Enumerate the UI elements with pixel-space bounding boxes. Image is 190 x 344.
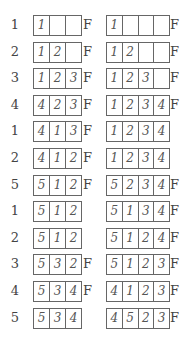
- reference-label: 1: [9, 123, 21, 138]
- reference-row: 11F1F: [0, 15, 190, 36]
- frame-cell: 5: [123, 309, 139, 328]
- frame-cell: 3: [139, 202, 155, 221]
- frame-cell: 2: [139, 255, 155, 274]
- three-frame-set: 412: [33, 148, 82, 169]
- frame-cell: [154, 69, 169, 88]
- frame-cell: 1: [123, 255, 139, 274]
- reference-row: 4423F1234F: [0, 95, 190, 116]
- reference-label: 5: [9, 310, 21, 325]
- three-frame-set: 413: [33, 121, 82, 142]
- reference-row: 15125134F: [0, 201, 190, 222]
- frame-cell: 4: [66, 282, 81, 301]
- reference-label: 5: [9, 177, 21, 192]
- frame-cell: [123, 16, 139, 35]
- frame-cell: [154, 43, 169, 62]
- frame-cell: 2: [50, 43, 66, 62]
- frame-cell: 3: [66, 69, 81, 88]
- frame-cell: 3: [154, 255, 169, 274]
- reference-row: 5512F5234F: [0, 175, 190, 196]
- frame-cell: 3: [139, 149, 155, 168]
- reference-row: 1413F1234: [0, 121, 190, 142]
- page-fault-marker: F: [170, 70, 179, 85]
- frame-cell: 4: [154, 122, 169, 141]
- page-fault-marker: F: [83, 177, 92, 192]
- frame-cell: 4: [154, 176, 169, 195]
- four-frame-set: 1234: [106, 95, 170, 116]
- reference-row: 4534F4123F: [0, 281, 190, 302]
- page-fault-marker: F: [170, 310, 179, 325]
- frame-cell: 1: [34, 69, 50, 88]
- frame-cell: 4: [34, 96, 50, 115]
- frame-cell: 2: [123, 149, 139, 168]
- frame-cell: 2: [123, 96, 139, 115]
- reference-row: 2412F1234: [0, 148, 190, 169]
- frame-cell: 2: [123, 122, 139, 141]
- reference-label: 2: [9, 44, 21, 59]
- frame-cell: 1: [107, 16, 123, 35]
- frame-cell: 4: [154, 149, 169, 168]
- four-frame-set: 1: [106, 15, 170, 36]
- page-fault-marker: F: [170, 17, 179, 32]
- four-frame-set: 4123: [106, 281, 170, 302]
- frame-cell: 1: [50, 122, 66, 141]
- frame-cell: 2: [139, 229, 155, 248]
- frame-cell: 2: [123, 69, 139, 88]
- frame-cell: 1: [107, 69, 123, 88]
- frame-cell: 2: [66, 202, 81, 221]
- reference-label: 1: [9, 203, 21, 218]
- reference-row: 212F12F: [0, 42, 190, 63]
- frame-cell: 5: [34, 176, 50, 195]
- frame-cell: 2: [50, 69, 66, 88]
- page-fault-marker: F: [83, 150, 92, 165]
- frame-cell: 2: [139, 309, 155, 328]
- frame-cell: 1: [50, 229, 66, 248]
- frame-cell: 4: [66, 309, 81, 328]
- four-frame-set: 5134: [106, 201, 170, 222]
- four-frame-set: 5123: [106, 254, 170, 275]
- frame-cell: 1: [50, 202, 66, 221]
- frame-cell: 1: [34, 43, 50, 62]
- frame-cell: 2: [66, 149, 81, 168]
- page-fault-marker: F: [170, 44, 179, 59]
- frame-cell: 4: [154, 229, 169, 248]
- frame-cell: 5: [107, 229, 123, 248]
- frame-cell: 2: [66, 229, 81, 248]
- frame-cell: [66, 43, 81, 62]
- frame-cell: 1: [34, 16, 50, 35]
- page-fault-marker: F: [83, 123, 92, 138]
- four-frame-set: 12: [106, 42, 170, 63]
- three-frame-set: 512: [33, 201, 82, 222]
- frame-cell: 3: [66, 122, 81, 141]
- frame-cell: 2: [139, 282, 155, 301]
- frame-cell: 2: [66, 176, 81, 195]
- reference-label: 2: [9, 150, 21, 165]
- reference-row: 55344523F: [0, 308, 190, 329]
- three-frame-set: 512: [33, 228, 82, 249]
- frame-cell: 3: [50, 309, 66, 328]
- frame-cell: 5: [107, 176, 123, 195]
- frame-cell: 5: [34, 282, 50, 301]
- frame-cell: 5: [34, 202, 50, 221]
- page-fault-marker: F: [83, 283, 92, 298]
- frame-cell: 2: [123, 43, 139, 62]
- reference-row: 3123F123F: [0, 68, 190, 89]
- three-frame-set: 532: [33, 254, 82, 275]
- frame-cell: 1: [107, 149, 123, 168]
- frame-cell: [139, 43, 155, 62]
- frame-cell: [66, 16, 81, 35]
- reference-label: 2: [9, 230, 21, 245]
- frame-cell: 1: [50, 149, 66, 168]
- frame-cell: 4: [154, 202, 169, 221]
- frame-cell: 1: [123, 282, 139, 301]
- frame-cell: 1: [50, 176, 66, 195]
- frame-cell: 3: [154, 309, 169, 328]
- frame-cell: 1: [107, 43, 123, 62]
- frame-cell: 3: [139, 69, 155, 88]
- page-fault-marker: F: [83, 256, 92, 271]
- reference-label: 3: [9, 70, 21, 85]
- reference-row: 25125124F: [0, 228, 190, 249]
- frame-cell: 5: [107, 202, 123, 221]
- reference-label: 1: [9, 17, 21, 32]
- frame-cell: [154, 16, 169, 35]
- frame-cell: 2: [50, 96, 66, 115]
